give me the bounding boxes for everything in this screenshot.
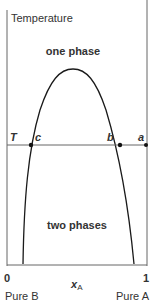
- x-min-caption: Pure B: [5, 290, 39, 302]
- region-two-phases-label: two phases: [47, 219, 107, 231]
- point-c: [29, 143, 33, 147]
- coexistence-curve: [23, 69, 134, 264]
- y-axis-label: Temperature: [11, 12, 73, 24]
- point-a-label: a: [138, 131, 144, 143]
- phase-diagram: Temperature one phase two phases T c b a…: [0, 0, 151, 306]
- x-axis-label-subscript: A: [77, 283, 83, 292]
- x-axis-label: xA: [70, 278, 83, 292]
- point-c-label: c: [35, 131, 41, 143]
- x-max-caption: Pure A: [116, 290, 150, 302]
- point-b: [118, 143, 122, 147]
- point-b-label: b: [107, 131, 114, 143]
- region-one-phase-label: one phase: [46, 45, 100, 57]
- point-a: [144, 143, 148, 147]
- x-min-tick-label: 0: [4, 272, 10, 284]
- tie-line-label-T: T: [10, 131, 18, 143]
- x-max-tick-label: 1: [143, 272, 149, 284]
